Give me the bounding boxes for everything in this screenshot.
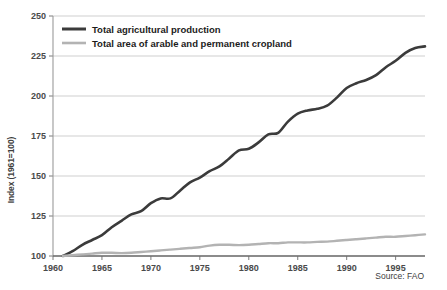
chart-container: 100125150175200225250 196019651970197519… (0, 0, 447, 290)
source-note: Source: FAO (375, 271, 424, 281)
y-tick-label: 150 (31, 171, 46, 181)
x-tick-label: 1980 (239, 263, 259, 273)
y-tick-label: 200 (31, 91, 46, 101)
x-tick-label: 1965 (92, 263, 112, 273)
y-tick-label: 175 (31, 131, 46, 141)
line-chart: 100125150175200225250 196019651970197519… (0, 0, 447, 290)
y-tick-label: 250 (31, 11, 46, 21)
legend-label-0: Total agricultural production (92, 24, 221, 35)
legend-label-1: Total area of arable and permanent cropl… (92, 38, 292, 49)
x-tick-label: 1975 (190, 263, 210, 273)
x-tick-label: 1970 (141, 263, 161, 273)
x-tick-label: 1990 (337, 263, 357, 273)
y-tick-label: 225 (31, 51, 46, 61)
y-tick-label: 125 (31, 211, 46, 221)
y-tick-label: 100 (31, 251, 46, 261)
y-axis-label: Index (1961=100) (6, 136, 16, 203)
x-tick-label: 1985 (288, 263, 308, 273)
x-tick-label: 1960 (43, 263, 63, 273)
